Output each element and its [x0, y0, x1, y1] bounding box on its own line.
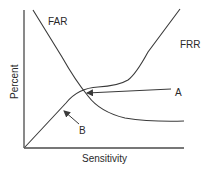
y-axis-label: Percent — [9, 64, 20, 99]
x-axis-label: Sensitivity — [82, 153, 127, 164]
annotation-b-label: B — [79, 125, 86, 136]
far-label: FAR — [48, 16, 67, 27]
frr-curve — [25, 9, 180, 147]
far-frr-chart: FAR FRR A B Sensitivity Percent — [0, 0, 209, 169]
frr-label: FRR — [180, 39, 201, 50]
annotation-a-label: A — [175, 87, 182, 98]
arrow-b — [64, 111, 79, 124]
arrow-a — [87, 89, 171, 93]
